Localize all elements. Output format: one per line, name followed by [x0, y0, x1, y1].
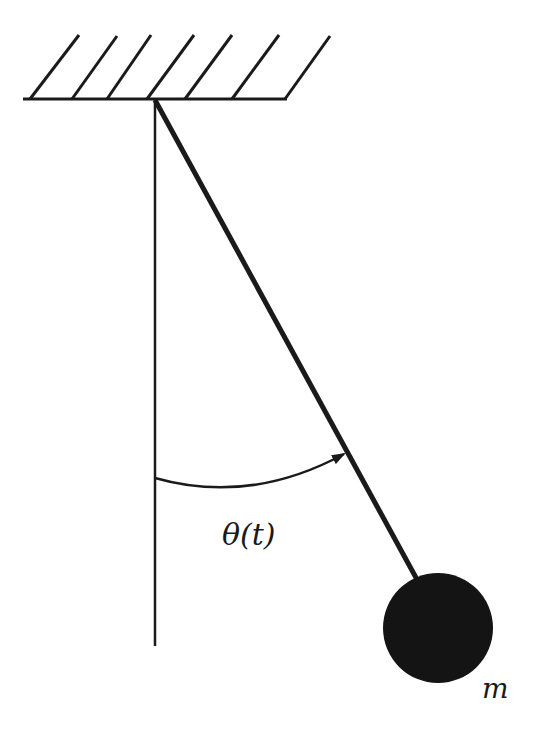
ceiling-hatching	[30, 35, 330, 99]
ceiling	[23, 35, 330, 99]
pendulum-bob	[383, 573, 493, 683]
angle-arc-arrow	[155, 454, 344, 487]
pendulum-rod	[155, 100, 420, 585]
pendulum-diagram: θ(t) m	[0, 0, 536, 742]
mass-label: m	[482, 672, 509, 705]
angle-label: θ(t)	[222, 517, 276, 552]
